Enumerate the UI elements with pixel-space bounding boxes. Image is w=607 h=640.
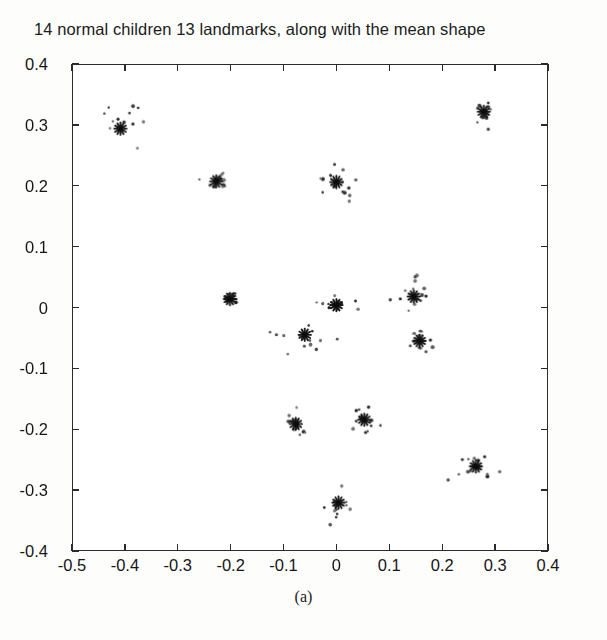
x-tick-mark-top — [71, 64, 72, 71]
y-tick-mark — [72, 124, 79, 125]
x-tick-label: 0.4 — [537, 556, 560, 575]
x-tick-mark-top — [494, 64, 495, 71]
x-tick-mark-top — [389, 64, 390, 71]
y-tick-mark-right — [541, 307, 548, 308]
y-tick-label: -0.3 — [20, 481, 48, 500]
y-tick-mark-right — [541, 246, 548, 247]
plot-frame — [72, 64, 548, 551]
x-tick-mark-top — [336, 64, 337, 71]
y-tick-label: -0.2 — [20, 420, 48, 439]
y-tick-label: 0 — [39, 298, 48, 317]
y-tick-label: -0.1 — [20, 359, 48, 378]
x-tick-mark-top — [124, 64, 125, 71]
y-tick-mark-right — [541, 368, 548, 369]
x-tick-label: -0.3 — [164, 556, 192, 575]
y-tick-mark — [72, 63, 79, 64]
x-tick-mark — [124, 544, 125, 551]
y-tick-label: 0.4 — [25, 55, 48, 74]
y-tick-mark — [72, 550, 79, 551]
x-tick-label: 0 — [332, 556, 341, 575]
chart-title: 14 normal children 13 landmarks, along w… — [34, 20, 594, 39]
y-tick-mark — [72, 307, 79, 308]
figure-caption: (a) — [0, 588, 607, 606]
y-tick-mark — [72, 429, 79, 430]
x-tick-mark — [230, 544, 231, 551]
x-tick-mark — [177, 544, 178, 551]
y-tick-label: 0.1 — [25, 237, 48, 256]
x-tick-mark-top — [283, 64, 284, 71]
y-tick-mark — [72, 368, 79, 369]
x-tick-label: -0.1 — [269, 556, 297, 575]
scatter-plot-canvas — [73, 65, 547, 550]
y-tick-mark — [72, 246, 79, 247]
y-tick-mark — [72, 489, 79, 490]
y-tick-mark-right — [541, 63, 548, 64]
x-tick-mark-top — [230, 64, 231, 71]
x-tick-mark-top — [547, 64, 548, 71]
x-tick-mark-top — [177, 64, 178, 71]
figure-page: 14 normal children 13 landmarks, along w… — [0, 0, 607, 640]
y-tick-mark — [72, 185, 79, 186]
x-tick-label: 0.3 — [484, 556, 507, 575]
y-tick-mark-right — [541, 429, 548, 430]
x-tick-label: 0.1 — [378, 556, 401, 575]
x-tick-label: 0.2 — [431, 556, 454, 575]
x-tick-mark — [336, 544, 337, 551]
x-tick-label: -0.4 — [111, 556, 139, 575]
y-tick-label: -0.4 — [20, 542, 48, 561]
y-tick-mark-right — [541, 185, 548, 186]
x-tick-mark-top — [442, 64, 443, 71]
x-tick-mark — [442, 544, 443, 551]
x-tick-mark — [494, 544, 495, 551]
y-tick-label: 0.3 — [25, 115, 48, 134]
x-tick-label: -0.5 — [58, 556, 86, 575]
y-tick-label: 0.2 — [25, 176, 48, 195]
y-tick-mark-right — [541, 124, 548, 125]
x-tick-mark — [283, 544, 284, 551]
x-tick-mark — [389, 544, 390, 551]
y-tick-mark-right — [541, 489, 548, 490]
x-tick-label: -0.2 — [216, 556, 244, 575]
y-tick-mark-right — [541, 550, 548, 551]
